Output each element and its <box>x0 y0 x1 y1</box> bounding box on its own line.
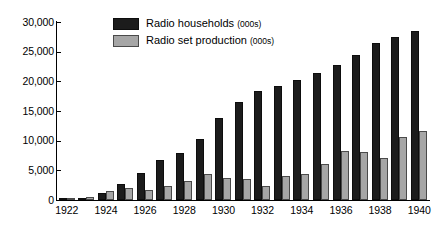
bar-radio-households <box>59 198 67 200</box>
y-axis-tick-label: 25,000 <box>2 46 54 57</box>
bar-radio-households <box>372 43 380 200</box>
bar-group <box>391 22 408 200</box>
y-axis-tick-label: 20,000 <box>2 76 54 87</box>
bar-radio-households <box>274 86 282 200</box>
bar-radio-set-production <box>106 191 114 200</box>
legend-swatch-radio-households <box>113 18 139 30</box>
bar-group <box>274 22 291 200</box>
bar-radio-set-production <box>341 151 349 200</box>
x-axis-tick-label: 1940 <box>408 205 431 216</box>
bar-radio-households <box>137 173 145 200</box>
y-axis-tick <box>56 200 61 201</box>
bar-radio-set-production <box>301 174 309 200</box>
bar-radio-households <box>176 153 184 200</box>
bar-group <box>313 22 330 200</box>
x-axis-tick-label: 1938 <box>369 205 392 216</box>
x-axis-tick-label: 1928 <box>173 205 196 216</box>
bar-group <box>333 22 350 200</box>
legend-swatch-radio-set-production <box>113 35 139 47</box>
bar-radio-households <box>254 91 262 200</box>
bar-radio-set-production <box>399 137 407 200</box>
bar-radio-households <box>411 31 419 200</box>
bar-radio-set-production <box>223 178 231 200</box>
y-axis-tick-label: 15,000 <box>2 106 54 117</box>
x-axis-tick-label: 1934 <box>290 205 313 216</box>
bar-radio-households <box>293 80 301 200</box>
bar-group <box>59 22 76 200</box>
legend-label-radio-households: Radio households (000s) <box>146 17 261 30</box>
bar-radio-households <box>313 73 321 200</box>
bar-radio-set-production <box>243 179 251 200</box>
bar-radio-households <box>333 65 341 200</box>
x-axis-tick-label: 1924 <box>94 205 117 216</box>
x-axis-tick-label: 1936 <box>329 205 352 216</box>
bar-radio-set-production <box>145 190 153 200</box>
bar-radio-set-production <box>86 197 94 200</box>
bar-radio-set-production <box>321 164 329 200</box>
bar-radio-set-production <box>419 131 427 200</box>
bar-group <box>98 22 115 200</box>
chart-legend: Radio households (000s) Radio set produc… <box>113 16 274 50</box>
bar-radio-households <box>78 198 86 200</box>
bar-radio-set-production <box>282 176 290 200</box>
x-axis-tick-label: 1930 <box>212 205 235 216</box>
bar-radio-households <box>352 55 360 200</box>
bar-group <box>411 22 428 200</box>
bar-group <box>78 22 95 200</box>
legend-item-radio-households: Radio households (000s) <box>113 16 274 31</box>
bar-radio-set-production <box>262 186 270 200</box>
y-axis-tick-label: 10,000 <box>2 135 54 146</box>
bar-radio-households <box>156 160 164 200</box>
y-axis-tick-label: 5,000 <box>2 165 54 176</box>
bar-radio-households <box>196 139 204 200</box>
bar-radio-households <box>215 118 223 200</box>
bar-radio-households <box>117 184 125 200</box>
x-axis-tick-label: 1922 <box>55 205 78 216</box>
bar-group <box>293 22 310 200</box>
x-axis-line <box>56 200 430 201</box>
x-axis-tick-label: 1926 <box>134 205 157 216</box>
x-axis-tick-label: 1932 <box>251 205 274 216</box>
legend-label-radio-set-production: Radio set production (000s) <box>146 34 274 47</box>
bar-radio-households <box>235 102 243 200</box>
bar-radio-set-production <box>164 186 172 200</box>
bar-group <box>352 22 369 200</box>
bar-radio-households <box>391 37 399 200</box>
radio-growth-bar-chart: 30,00025,00020,00015,00010,0005,0000 192… <box>0 0 434 230</box>
bar-radio-set-production <box>360 152 368 200</box>
bar-radio-set-production <box>184 181 192 200</box>
y-axis-tick-label: 0 <box>2 195 54 206</box>
bar-radio-set-production <box>380 158 388 200</box>
y-axis-tick-label: 30,000 <box>2 17 54 28</box>
bar-radio-set-production <box>125 188 133 200</box>
legend-item-radio-set-production: Radio set production (000s) <box>113 33 274 48</box>
bar-group <box>372 22 389 200</box>
bar-radio-set-production <box>204 174 212 200</box>
bar-radio-households <box>98 193 106 200</box>
bar-radio-set-production <box>67 198 75 200</box>
